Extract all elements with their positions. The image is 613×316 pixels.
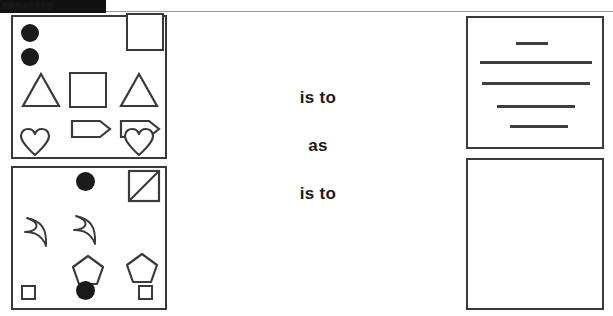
horizontal-line-2 <box>480 61 592 64</box>
horizontal-line-3 <box>482 82 590 85</box>
filled-circle-icon <box>21 48 39 66</box>
horizontal-line-4 <box>497 105 575 108</box>
small-square-icon <box>138 285 153 300</box>
filled-circle-icon <box>21 24 39 42</box>
bottom-left-shape-panel <box>11 166 167 310</box>
outlined-square-icon <box>69 72 107 108</box>
analogy-text-group: is to as is to <box>248 88 388 204</box>
slashed-square-icon <box>127 169 161 203</box>
analogy-phrase-first: is to <box>248 88 388 108</box>
redaction-label: REDACTED <box>0 0 106 13</box>
crescent-moon-icon <box>70 213 104 247</box>
analogy-phrase-middle: as <box>248 136 388 156</box>
filled-circle-icon <box>76 172 95 191</box>
arrow-banner-icon <box>70 118 112 140</box>
crescent-moon-icon <box>21 215 55 249</box>
puzzle-canvas: REDACTED <box>0 0 613 316</box>
filled-circle-icon <box>76 281 95 300</box>
horizontal-line-5 <box>510 125 568 128</box>
pentagon-icon <box>125 252 159 284</box>
heart-icon <box>19 127 51 157</box>
triangle-icon <box>21 72 61 108</box>
analogy-phrase-second: is to <box>248 184 388 204</box>
bottom-right-answer-panel[interactable] <box>466 158 604 310</box>
triangle-icon <box>119 72 159 108</box>
redaction-bar: REDACTED <box>0 0 106 13</box>
outlined-square-icon <box>126 13 164 51</box>
small-square-icon <box>21 285 36 300</box>
heart-icon <box>123 127 155 157</box>
top-left-shape-panel <box>11 15 167 159</box>
top-right-lines-panel <box>466 16 604 149</box>
horizontal-line-1 <box>516 42 548 45</box>
